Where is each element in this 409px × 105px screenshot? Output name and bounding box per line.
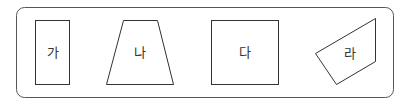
shape-label-ga: 가 — [47, 45, 59, 60]
shapes-diagram: 가 나 다 라 — [0, 0, 409, 105]
shape-na: 나 — [107, 21, 174, 85]
shape-label-na: 나 — [134, 45, 146, 60]
shape-label-da: 다 — [239, 45, 251, 60]
shape-ra: 라 — [316, 19, 376, 85]
shape-label-ra: 라 — [344, 46, 356, 61]
shape-da: 다 — [212, 21, 279, 85]
shape-ga: 가 — [36, 21, 70, 85]
